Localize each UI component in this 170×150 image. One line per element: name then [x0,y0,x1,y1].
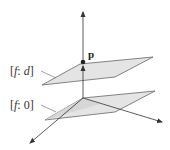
lower-leader [41,105,56,112]
point-p [81,60,86,65]
point-p-label: p [88,48,94,60]
lower-plane [45,91,155,120]
upper-plane [42,57,153,85]
upper-leader [41,71,56,78]
lower-plane-label: [f: 0] [10,98,34,112]
level-set-diagram: p [f: d] [f: 0] [0,0,170,150]
x-axis [30,98,83,143]
upper-plane-label: [f: d] [10,64,34,78]
